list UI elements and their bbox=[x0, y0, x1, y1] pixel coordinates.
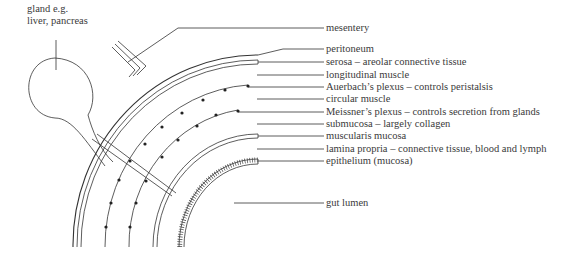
label-gut-lumen: gut lumen bbox=[326, 197, 368, 209]
gland-label-line2: liver, pancreas bbox=[27, 15, 88, 27]
serosa-arc-1 bbox=[77, 60, 258, 247]
muscularis-mucosa-arc-2 bbox=[157, 138, 258, 247]
epithelium-arc-inner bbox=[184, 164, 258, 247]
peritoneum-arc bbox=[73, 55, 258, 247]
mesentery-line-3 bbox=[118, 41, 146, 75]
epithelium-hatch bbox=[180, 160, 258, 247]
meissner-plexus-arc bbox=[129, 110, 238, 247]
label-lamina-propria: lamina propria – connective tissue, bloo… bbox=[326, 143, 546, 155]
label-peritoneum: peritoneum bbox=[326, 43, 374, 55]
gut-wall-diagram bbox=[0, 0, 574, 259]
gland-label-line1: gland e.g. bbox=[27, 3, 68, 15]
label-auerbach-plexus: Auerbach’s plexus – controls peristalsis bbox=[326, 81, 493, 93]
mesentery-line-2 bbox=[115, 44, 140, 76]
leader-peritoneum bbox=[258, 49, 324, 55]
label-meissner-plexus: Meissner’s plexus – controls secretion f… bbox=[326, 106, 540, 118]
plexus-ganglia bbox=[104, 84, 249, 228]
label-mesentery: mesentery bbox=[326, 22, 369, 34]
leader-mesentery bbox=[128, 28, 324, 62]
label-longitudinal-muscle: longitudinal muscle bbox=[326, 69, 409, 81]
serosa-arc-2 bbox=[81, 64, 258, 247]
vessel-line-2 bbox=[97, 134, 176, 193]
label-epithelium: epithelium (mucosa) bbox=[326, 155, 413, 167]
mesentery-line-1 bbox=[112, 47, 135, 77]
vessel-line-1 bbox=[92, 139, 172, 196]
gland-outline bbox=[29, 58, 113, 166]
label-circular-muscle: circular muscle bbox=[326, 93, 390, 105]
label-muscularis-mucosa: muscularis mucosa bbox=[326, 130, 406, 142]
label-serosa: serosa – areolar connective tissue bbox=[326, 56, 467, 68]
label-submucosa: submucosa – largely collagen bbox=[326, 118, 450, 130]
muscularis-mucosa-arc-1 bbox=[153, 134, 258, 247]
